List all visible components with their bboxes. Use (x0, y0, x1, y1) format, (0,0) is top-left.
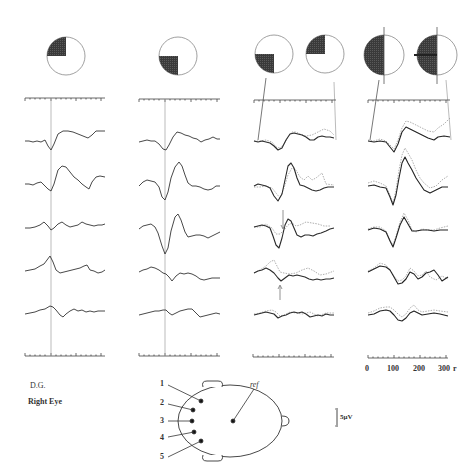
electrode-label-3: 3 (160, 416, 164, 425)
stimulus-onset-lines (51, 98, 165, 356)
stimulus-col2 (159, 37, 197, 75)
ref-label: ref (250, 380, 259, 389)
electrode-label-5: 5 (160, 452, 164, 461)
traces-col2 (139, 132, 220, 317)
time-tick-300: 300 (438, 364, 450, 373)
traces-col4 (368, 118, 450, 321)
time-unit: r (453, 364, 457, 373)
electrode-label-2: 2 (160, 398, 164, 407)
stimulus-col3a (255, 35, 293, 73)
vep-figure (0, 0, 458, 474)
stimulus-col3b (306, 35, 344, 73)
electrode-label-4: 4 (160, 433, 164, 442)
electrode-label-1: 1 (160, 379, 164, 388)
calibration-label: 5μV (340, 413, 353, 421)
calibration-bar (335, 408, 337, 427)
stimulus-col4a (364, 27, 404, 84)
subject-label: D.G. (30, 381, 46, 390)
electrodes (168, 385, 254, 457)
time-tick-200: 200 (413, 364, 425, 373)
time-tick-100: 100 (387, 364, 399, 373)
stimulus-col4b (414, 27, 457, 84)
connector-lines (258, 78, 451, 140)
stimulus-col1 (47, 37, 85, 75)
time-tick-0: 0 (365, 364, 369, 373)
traces-col3 (254, 129, 334, 318)
traces-col1 (25, 131, 105, 317)
eye-label: Right Eye (28, 397, 62, 406)
